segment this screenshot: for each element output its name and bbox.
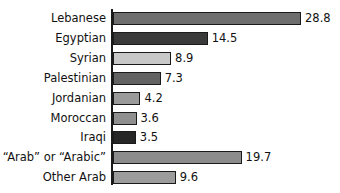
chart-row: “Arab” or “Arabic” 19.7: [0, 148, 340, 167]
bar: [113, 72, 161, 85]
category-label: “Arab” or “Arabic”: [0, 151, 106, 164]
value-label: 9.6: [180, 171, 198, 184]
bar: [113, 12, 301, 25]
bar-group: 19.7: [113, 151, 271, 164]
chart-row: Iraqi 3.5: [0, 128, 340, 147]
value-label: 14.5: [212, 32, 238, 45]
value-label: 19.7: [246, 151, 272, 164]
bar-group: 14.5: [113, 32, 237, 45]
category-label: Palestinian: [0, 72, 106, 85]
value-label: 28.8: [305, 12, 331, 25]
value-label: 7.3: [165, 72, 183, 85]
category-label: Syrian: [0, 52, 106, 65]
chart-row: Palestinian 7.3: [0, 69, 340, 88]
value-label: 4.2: [144, 92, 162, 105]
chart-row: Syrian 8.9: [0, 49, 340, 68]
category-label: Jordanian: [0, 92, 106, 105]
value-label: 3.5: [140, 131, 158, 144]
category-label: Moroccan: [0, 112, 106, 125]
bar: [113, 151, 242, 164]
bar: [113, 32, 208, 45]
chart-row: Lebanese 28.8: [0, 9, 340, 28]
value-label: 8.9: [175, 52, 193, 65]
chart-row: Other Arab 9.6: [0, 168, 340, 187]
bar-group: 28.8: [113, 12, 331, 25]
category-label: Lebanese: [0, 12, 106, 25]
bar-group: 4.2: [113, 92, 163, 105]
bar-group: 3.5: [113, 131, 158, 144]
bar-group: 3.6: [113, 112, 159, 125]
value-label: 3.6: [141, 112, 159, 125]
bar: [113, 52, 171, 65]
category-label: Other Arab: [0, 171, 106, 184]
bar: [113, 131, 136, 144]
bar: [113, 112, 137, 125]
bar-chart: Lebanese 28.8 Egyptian 14.5 Syrian 8.9 P…: [0, 0, 340, 193]
bar-group: 9.6: [113, 171, 198, 184]
chart-row: Egyptian 14.5: [0, 29, 340, 48]
plot-area: Lebanese 28.8 Egyptian 14.5 Syrian 8.9 P…: [0, 0, 340, 193]
chart-row: Jordanian 4.2: [0, 89, 340, 108]
bar: [113, 92, 140, 105]
bar-group: 8.9: [113, 52, 193, 65]
chart-row: Moroccan 3.6: [0, 109, 340, 128]
category-label: Egyptian: [0, 32, 106, 45]
category-label: Iraqi: [0, 131, 106, 144]
bar-group: 7.3: [113, 72, 183, 85]
bar: [113, 171, 176, 184]
